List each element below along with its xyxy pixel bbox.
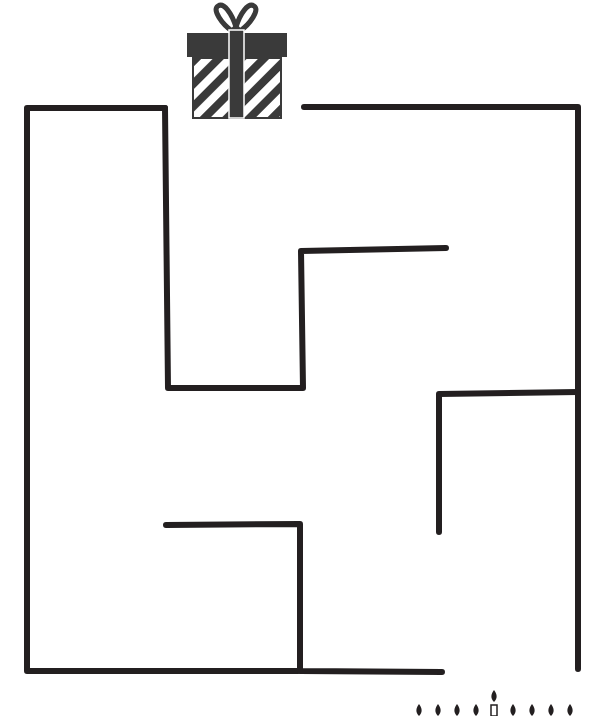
wall-inner-step: [165, 108, 446, 388]
wall-top-right: [304, 107, 578, 669]
maze-walls: [27, 107, 578, 672]
wall-lower-hook: [166, 524, 442, 672]
gift-box-icon: [187, 5, 287, 118]
maze-board: [0, 0, 606, 716]
candles-row-icon: [416, 690, 572, 716]
wall-right-hook: [439, 392, 578, 532]
